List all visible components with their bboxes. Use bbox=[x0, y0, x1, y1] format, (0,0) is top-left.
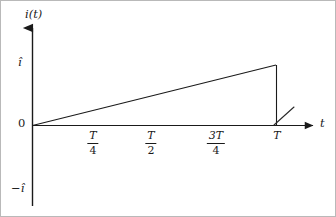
x-tick-t-period: T bbox=[273, 130, 280, 142]
sawtooth-ramp bbox=[33, 65, 277, 126]
fraction: 3T 4 bbox=[207, 130, 225, 156]
fraction-numerator: T bbox=[145, 130, 156, 144]
y-axis-label: i(t) bbox=[25, 9, 42, 21]
fraction-denominator: 2 bbox=[145, 144, 156, 157]
y-tick-peak: î bbox=[18, 57, 22, 69]
x-tick-t-period-label: T bbox=[273, 130, 280, 142]
x-axis-label: t bbox=[320, 118, 325, 130]
plot-canvas bbox=[1, 1, 336, 217]
x-tick-t-half: T 2 bbox=[145, 130, 156, 156]
fraction-numerator: 3T bbox=[207, 130, 225, 144]
fraction-denominator: 4 bbox=[87, 144, 98, 157]
fraction: T 4 bbox=[87, 130, 98, 156]
x-tick-t-quarter: T 4 bbox=[87, 130, 98, 156]
x-tick-t-three-quarter: 3T 4 bbox=[207, 130, 225, 156]
y-tick-zero: 0 bbox=[18, 118, 25, 130]
y-tick-negative-peak: −î bbox=[11, 183, 24, 195]
fraction-numerator: T bbox=[87, 130, 98, 144]
fraction-denominator: 4 bbox=[207, 144, 225, 157]
fraction: T 2 bbox=[145, 130, 156, 156]
sawtooth-waveform-figure: i(t) t î 0 −î T 4 T 2 3T 4 T bbox=[0, 0, 336, 217]
